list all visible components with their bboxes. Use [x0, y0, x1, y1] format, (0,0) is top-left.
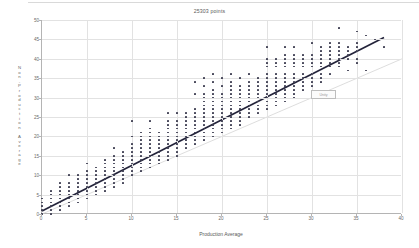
scatter-point: [257, 105, 259, 107]
scatter-point: [212, 93, 214, 95]
scatter-point: [167, 120, 169, 122]
scatter-point: [194, 124, 196, 126]
scatter-point: [59, 202, 61, 204]
scatter-point: [338, 50, 340, 52]
scatter-point: [320, 50, 322, 52]
y-tick-label: 50: [17, 20, 39, 25]
scatter-point: [239, 89, 241, 91]
scatter-point: [329, 46, 331, 48]
scatter-point: [311, 81, 313, 83]
scatter-point: [113, 178, 115, 180]
plot-area: [41, 20, 401, 214]
scatter-point: [131, 155, 133, 157]
x-tick-label: 15: [164, 216, 188, 221]
scatter-point: [329, 58, 331, 60]
scatter-point: [311, 85, 313, 87]
scatter-point: [212, 120, 214, 122]
scatter-point: [230, 124, 232, 126]
scatter-point: [230, 108, 232, 110]
scatter-point: [59, 190, 61, 192]
scatter-point: [41, 205, 43, 207]
scatter-point: [194, 116, 196, 118]
scatter-point: [284, 93, 286, 95]
scatter-point: [257, 81, 259, 83]
y-tick-mark: [39, 39, 41, 40]
scatter-point: [77, 186, 79, 188]
scatter-point: [194, 81, 196, 83]
scatter-point: [140, 155, 142, 157]
scatter-point: [302, 62, 304, 64]
scatter-point: [41, 202, 43, 204]
scatter-point: [68, 205, 70, 207]
scatter-point: [239, 120, 241, 122]
scatter-point: [131, 174, 133, 176]
scatter-point: [266, 85, 268, 87]
scatter-point: [158, 136, 160, 138]
x-tick-label: 10: [119, 216, 143, 221]
top-divider: [28, 2, 419, 3]
x-tick-mark: [131, 214, 132, 216]
chart-screenshot: 25303 points 05101520253035404550 051015…: [0, 0, 419, 248]
scatter-point: [338, 46, 340, 48]
scatter-point: [266, 62, 268, 64]
scatter-point: [140, 143, 142, 145]
scatter-point: [194, 112, 196, 114]
scatter-point: [293, 54, 295, 56]
scatter-point: [176, 124, 178, 126]
scatter-point: [176, 147, 178, 149]
scatter-point: [59, 182, 61, 184]
scatter-point: [140, 139, 142, 141]
scatter-point: [203, 136, 205, 138]
scatter-point: [185, 143, 187, 145]
scatter-point: [338, 54, 340, 56]
scatter-point: [113, 186, 115, 188]
scatter-point: [50, 205, 52, 207]
scatter-point: [212, 89, 214, 91]
scatter-point: [203, 120, 205, 122]
scatter-point: [248, 108, 250, 110]
scatter-point: [176, 136, 178, 138]
scatter-point: [68, 202, 70, 204]
scatter-point: [59, 209, 61, 211]
scatter-point: [302, 85, 304, 87]
scatter-point: [167, 124, 169, 126]
scatter-point: [140, 151, 142, 153]
scatter-point: [86, 174, 88, 176]
scatter-point: [194, 93, 196, 95]
scatter-point: [302, 54, 304, 56]
scatter-point: [248, 112, 250, 114]
scatter-point: [221, 116, 223, 118]
scatter-point: [257, 93, 259, 95]
scatter-point: [248, 105, 250, 107]
scatter-point: [149, 155, 151, 157]
y-tick-mark: [39, 98, 41, 99]
scatter-point: [248, 116, 250, 118]
scatter-point: [122, 178, 124, 180]
scatter-point: [356, 58, 358, 60]
scatter-point: [149, 151, 151, 153]
scatter-point: [122, 174, 124, 176]
scatter-point: [275, 89, 277, 91]
x-tick-mark: [221, 214, 222, 216]
scatter-point: [239, 85, 241, 87]
scatter-point: [131, 120, 133, 122]
scatter-point: [104, 178, 106, 180]
scatter-point: [122, 155, 124, 157]
scatter-point: [284, 81, 286, 83]
unity-annotation-callout[interactable]: Unity: [311, 90, 336, 99]
scatter-point: [140, 136, 142, 138]
scatter-point: [311, 62, 313, 64]
scatter-point: [293, 89, 295, 91]
x-tick-label: 20: [209, 216, 233, 221]
scatter-point: [329, 50, 331, 52]
scatter-point: [275, 81, 277, 83]
scatter-point: [203, 77, 205, 79]
scatter-point: [167, 151, 169, 153]
scatter-point: [149, 136, 151, 138]
scatter-point: [167, 136, 169, 138]
scatter-point: [212, 112, 214, 114]
scatter-point: [185, 112, 187, 114]
scatter-point: [302, 89, 304, 91]
scatter-point: [86, 178, 88, 180]
scatter-point: [104, 186, 106, 188]
